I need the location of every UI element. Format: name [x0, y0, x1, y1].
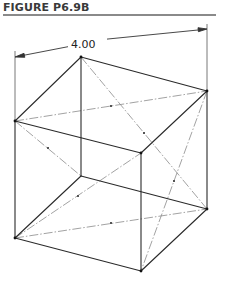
dimension-label: 4.00	[71, 38, 96, 51]
dimension-line	[15, 28, 207, 58]
midpoint-markers	[47, 105, 175, 224]
cube-edges	[15, 57, 207, 271]
arrowhead-right-icon	[198, 28, 207, 32]
isometric-cube-drawing: 4.00	[0, 0, 226, 287]
arrowhead-left-icon	[15, 53, 25, 57]
vertex-points	[14, 56, 209, 273]
centerlines	[15, 57, 207, 271]
